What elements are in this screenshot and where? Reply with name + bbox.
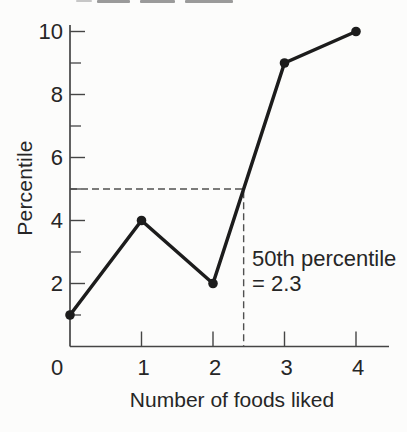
y-tick-label: 8 <box>51 82 63 107</box>
x-tick-label: 0 <box>51 355 63 380</box>
percentile-line-chart-figure: 24681001234 Percentile Number of foods l… <box>0 0 407 432</box>
x-axis-title: Number of foods liked <box>130 388 334 412</box>
x-tick-label: 3 <box>280 355 292 380</box>
x-tick-label: 2 <box>209 355 221 380</box>
line-chart-canvas: 24681001234 <box>0 0 407 432</box>
data-point <box>65 310 75 320</box>
y-tick-label: 4 <box>51 208 63 233</box>
y-tick-label: 6 <box>51 145 63 170</box>
data-point <box>137 216 147 226</box>
y-tick-label: 10 <box>39 19 63 44</box>
percentile-annotation-line1: 50th percentile <box>252 246 396 271</box>
y-axis-title: Percentile <box>13 140 37 235</box>
x-tick-label: 1 <box>137 355 149 380</box>
y-tick-label: 2 <box>51 271 63 296</box>
data-point <box>351 27 361 37</box>
percentile-annotation: 50th percentile = 2.3 <box>252 246 396 296</box>
data-point <box>280 58 290 68</box>
data-point <box>208 279 218 289</box>
x-tick-label: 4 <box>352 355 364 380</box>
percentile-annotation-line2: = 2.3 <box>252 271 396 296</box>
